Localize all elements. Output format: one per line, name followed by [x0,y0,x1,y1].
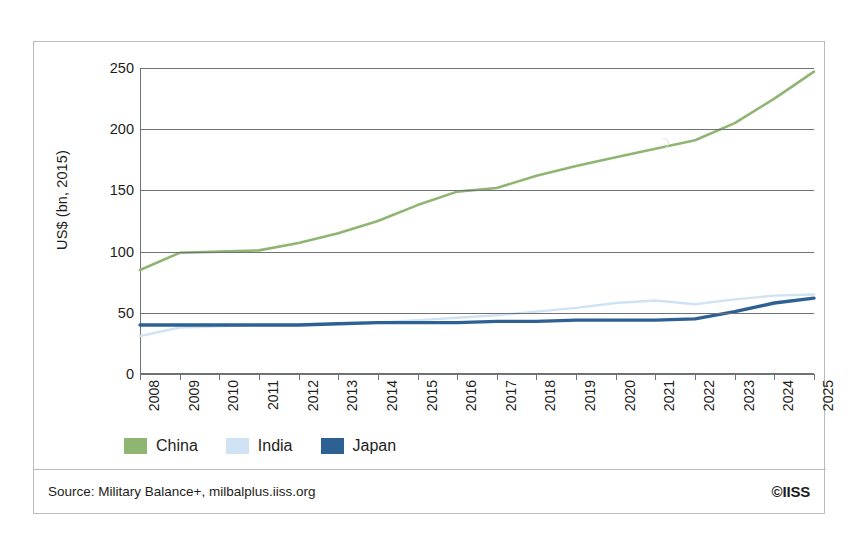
x-axis-tick-label: 2012 [305,380,321,411]
y-axis-tick-label: 200 [90,121,134,137]
legend-label: India [258,437,293,455]
y-axis-tick-label: 100 [90,244,134,260]
legend-entry-india[interactable]: India [226,437,293,455]
legend-entry-china[interactable]: China [124,437,198,455]
x-axis-tick-label: 2008 [146,380,162,411]
legend-swatch-icon [226,438,249,454]
x-axis-tick-label: 2011 [265,380,281,410]
x-axis-tick-label: 2017 [503,380,519,411]
y-axis-tick-label: 150 [90,182,134,198]
legend-swatch-icon [321,438,344,454]
legend-swatch-icon [124,438,147,454]
legend-entry-japan[interactable]: Japan [321,437,397,455]
plot-axes [140,68,814,374]
source-note: Source: Military Balance+, milbalplus.ii… [48,484,315,499]
gridline [140,252,814,253]
x-axis-tick-label: 2020 [622,380,638,411]
gridline [140,190,814,191]
figure-footer: Source: Military Balance+, milbalplus.ii… [34,469,826,513]
x-axis-tick-label: 2023 [741,380,757,411]
series-lines [140,68,814,374]
x-axis-tick-label: 2021 [661,380,677,411]
x-axis-tick-label: 2018 [542,380,558,411]
x-axis-tick-label: 2019 [582,380,598,411]
x-axis-tick-label: 2015 [424,380,440,411]
y-axis-tick-label: 50 [90,305,134,321]
series-line-china [140,72,814,270]
x-axis-tick-label: 2024 [780,380,796,411]
x-axis-tick-label: 2010 [225,380,241,411]
gridline [140,374,814,375]
x-axis-tick-label: 2022 [701,380,717,411]
gridline [140,68,814,69]
copyright-mark: ©IISS [772,483,810,500]
gridline [140,313,814,314]
x-axis-tick-label: 2016 [463,380,479,411]
x-axis-tick-label: 2014 [384,380,400,411]
y-axis-tick-label: 0 [90,366,134,382]
y-axis-tick-labels: 050100150200250 [90,42,134,427]
chart-legend: ChinaIndiaJapan [124,437,410,455]
x-axis-tick [814,374,815,380]
gridline [140,129,814,130]
x-axis-tick-labels: 2008200920102011201220132014201520162017… [140,380,814,428]
plot-region: US$ (bn, 2015) 050100150200250 200820092… [34,42,826,427]
chart-figure: US$ (bn, 2015) 050100150200250 200820092… [33,41,825,514]
x-axis-tick-label: 2025 [820,380,836,411]
x-axis-tick-label: 2013 [344,380,360,411]
x-axis-tick-label: 2009 [186,380,202,411]
legend-label: China [156,437,198,455]
y-axis-title: US$ (bn, 2015) [54,110,70,290]
legend-label: Japan [353,437,397,455]
y-axis-tick-label: 250 [90,60,134,76]
